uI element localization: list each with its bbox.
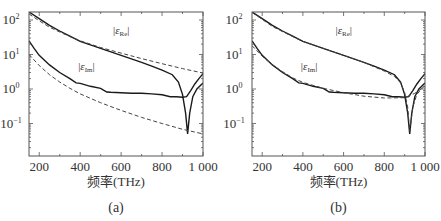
x-tick-label: 800 — [152, 159, 172, 174]
panel-caption: (a) — [108, 200, 124, 216]
x-tick-label: 800 — [375, 159, 395, 174]
panel-caption: (b) — [330, 200, 347, 216]
x-tick-label: 200 — [252, 159, 272, 174]
x-tick-label: 1 000 — [188, 159, 217, 174]
x-tick-label: 600 — [334, 159, 354, 174]
series-im-model — [29, 55, 203, 134]
label-eps-im: |εIm| — [78, 60, 95, 74]
chart-canvas: 2004006008001 00010210110010−1|εRe||εIm|… — [0, 0, 441, 221]
y-tick-label: 101 — [226, 47, 243, 62]
y-tick-label: 102 — [226, 12, 243, 27]
y-tick-label: 10−1 — [0, 116, 22, 131]
y-tick-label: 101 — [3, 47, 20, 62]
x-tick-label: 400 — [293, 159, 313, 174]
series-im-measured — [29, 41, 203, 97]
x-axis-title: 频率(THz) — [87, 174, 145, 189]
panel-a: 2004006008001 00010210110010−1|εRe||εIm|… — [0, 12, 217, 216]
x-tick-label: 200 — [29, 159, 49, 174]
x-axis-title: 频率(THz) — [310, 174, 368, 189]
label-eps-re: |εRe| — [113, 24, 130, 38]
y-tick-label: 100 — [3, 81, 20, 96]
x-tick-label: 600 — [111, 159, 131, 174]
y-tick-label: 10−1 — [223, 116, 245, 131]
x-tick-label: 1 000 — [410, 159, 439, 174]
panel-b: 2004006008001 00010210110010−1|εRe||εIm|… — [223, 12, 439, 216]
x-tick-label: 400 — [70, 159, 90, 174]
label-eps-re: |εRe| — [335, 24, 352, 38]
label-eps-im: |εIm| — [301, 60, 318, 74]
y-tick-label: 102 — [3, 12, 20, 27]
y-tick-label: 100 — [226, 81, 243, 96]
